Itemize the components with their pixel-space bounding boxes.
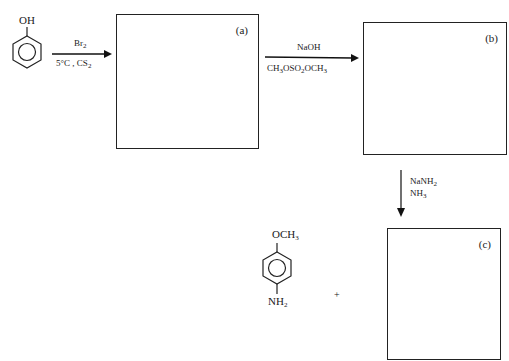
arrow-down-icon	[396, 170, 406, 220]
box-c-label: (c)	[479, 238, 491, 250]
step1-reagent-bottom: 5°C , CS2	[56, 58, 91, 68]
answer-box-a[interactable]: (a)	[116, 14, 259, 149]
plus-sign: +	[334, 289, 340, 300]
benzene-ring-icon	[255, 228, 315, 338]
box-a-label: (a)	[236, 24, 248, 36]
phenol-structure: OH	[6, 14, 46, 74]
reaction-step-1: Br2 5°C , CS2	[52, 38, 114, 78]
step3-reagent-line-2: NH3	[410, 188, 427, 198]
answer-box-c[interactable]: (c)	[387, 228, 501, 360]
box-b-label: (b)	[485, 32, 498, 44]
answer-box-b[interactable]: (b)	[363, 22, 507, 155]
anisidine-amino-label: NH2	[268, 295, 287, 307]
step2-reagent-top: NaOH	[297, 42, 321, 52]
benzene-ring-icon	[6, 14, 46, 64]
step2-reagent-bottom: CH3OSO2OCH3	[267, 63, 327, 73]
step1-reagent-top: Br2	[74, 38, 87, 48]
anisidine-structure: OCH3 NH2	[255, 228, 315, 338]
reaction-step-3: NaNH2 NH3	[396, 170, 456, 220]
reaction-step-2: NaOH CH3OSO2OCH3	[265, 42, 361, 82]
step3-reagent-line-1: NaNH2	[410, 176, 437, 186]
